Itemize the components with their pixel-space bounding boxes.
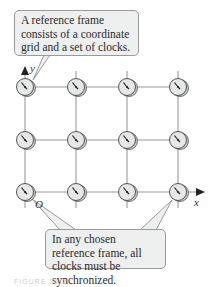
callout-reference-frame: A reference frame consists of a coordina… [14,10,139,56]
origin-label: O [35,198,43,210]
y-axis-arrow-icon [21,66,29,75]
figure-caption: FIGURE 36.2 [14,278,67,285]
x-axis-arrow-icon [196,188,205,196]
y-axis-label: y [30,62,35,74]
callout-synchronized-clocks: In any chosen reference frame, all clock… [45,229,166,269]
x-axis-label: x [194,196,199,208]
callout-pointers [32,55,172,230]
